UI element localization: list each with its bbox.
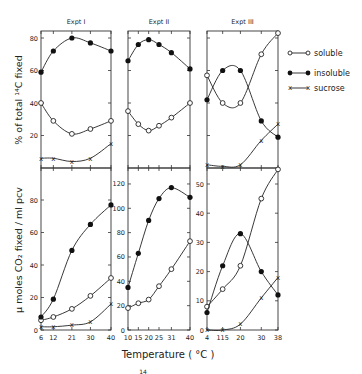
- filled-circle-marker: [156, 42, 161, 47]
- filled-circle-marker: [38, 70, 43, 75]
- open-circle-marker: [136, 301, 141, 306]
- x-marker-icon: x: [288, 84, 292, 92]
- panel-3-bottom: 010203040504115203038xxxxx: [196, 167, 282, 342]
- x-tick-label: 15: [134, 334, 142, 342]
- filled-circle-marker: [187, 66, 192, 71]
- x-tick-label: 21: [68, 334, 76, 342]
- y-tick-label: 20: [117, 302, 125, 310]
- y-tick-label: 60: [30, 229, 38, 237]
- filled-circle-marker: [108, 48, 113, 53]
- filled-circle-marker: [136, 251, 141, 256]
- y-tick-label: 100: [113, 205, 125, 213]
- x-marker: x: [109, 300, 113, 308]
- x-marker: x: [205, 326, 209, 334]
- panel-2-bottom: 020406080100120101520253140: [113, 168, 195, 342]
- open-circle-marker: [157, 284, 162, 289]
- legend: solubleinsolublexxsucrose: [288, 49, 350, 93]
- filled-circle-marker: [169, 50, 174, 55]
- x-tick-label: 20: [236, 334, 244, 342]
- legend-item-insoluble: insoluble: [288, 69, 350, 78]
- y-axis-label-bottom: μ moles CO₂ fixed / ml pcv: [13, 187, 24, 313]
- y-tick-label: 60: [30, 67, 38, 75]
- filled-circle-marker: [69, 35, 74, 40]
- open-circle-marker: [136, 122, 141, 127]
- filled-circle-marker: [69, 248, 74, 253]
- filled-circle-marker: [136, 42, 141, 47]
- open-circle-marker: [188, 239, 193, 244]
- filled-circle-marker: [238, 68, 243, 73]
- open-circle-marker: [157, 123, 162, 128]
- x-marker: x: [88, 155, 92, 163]
- open-circle-marker: [259, 52, 264, 57]
- open-circle-marker: [69, 306, 74, 311]
- filled-circle-marker: [275, 135, 280, 140]
- filled-circle-marker: [220, 68, 225, 73]
- legend-label: sucrose: [314, 84, 345, 93]
- y-tick-label: 20: [30, 132, 38, 140]
- y-tick-label: 0: [200, 327, 204, 335]
- x-tick-label: 20: [145, 334, 153, 342]
- filled-circle-marker: [88, 40, 93, 45]
- x-marker: x: [70, 321, 74, 329]
- x-marker: x: [88, 318, 92, 326]
- x-marker: x: [221, 326, 225, 334]
- x-marker: x: [70, 158, 74, 166]
- series-line-insoluble: [128, 188, 190, 288]
- open-circle-icon: [306, 51, 310, 55]
- series-line-sucrose: [207, 277, 278, 330]
- plot-frame: [128, 31, 190, 168]
- series-line-insoluble: [41, 38, 111, 72]
- x-tick-label: 30: [257, 334, 265, 342]
- filled-circle-marker: [204, 97, 209, 102]
- open-circle-marker: [146, 128, 151, 133]
- x-tick-label: 30: [86, 334, 94, 342]
- x-tick-label: 115: [216, 334, 228, 342]
- open-circle-marker: [276, 167, 281, 172]
- open-circle-marker: [51, 315, 56, 320]
- open-circle-marker: [220, 287, 225, 292]
- footer-mark: 14: [139, 368, 147, 374]
- filled-circle-marker: [146, 37, 151, 42]
- figure: Expt I20406080xxxxxExpt IIExpt IIIxxxxx0…: [0, 0, 362, 374]
- open-circle-marker: [188, 101, 193, 106]
- open-circle-marker: [126, 109, 131, 114]
- panel-title: Expt I: [67, 18, 86, 26]
- y-tick-label: 80: [117, 229, 125, 237]
- x-marker: x: [39, 155, 43, 163]
- x-marker: x: [259, 137, 263, 145]
- chart-panels: Expt I20406080xxxxxExpt IIExpt IIIxxxxx0…: [30, 18, 282, 342]
- plot-frame: [207, 168, 278, 330]
- filled-circle-marker: [51, 297, 56, 302]
- x-tick-label: 25: [155, 334, 163, 342]
- open-circle-marker: [109, 118, 114, 123]
- open-circle-marker: [146, 297, 151, 302]
- y-tick-label: 50: [196, 181, 204, 189]
- filled-circle-marker: [187, 195, 192, 200]
- y-tick-label: 0: [34, 327, 38, 335]
- filled-circle-marker: [204, 310, 209, 315]
- filled-circle-marker: [275, 292, 280, 297]
- filled-circle-marker: [169, 185, 174, 190]
- open-circle-marker: [88, 127, 93, 132]
- filled-circle-marker: [146, 218, 151, 223]
- open-circle-marker: [39, 101, 44, 106]
- panel-1-top: Expt I20406080xxxxx: [30, 18, 114, 168]
- series-line-insoluble: [207, 234, 278, 313]
- x-marker: x: [51, 155, 55, 163]
- y-tick-label: 40: [117, 278, 125, 286]
- y-tick-label: 30: [196, 239, 204, 247]
- open-circle-marker: [126, 306, 131, 311]
- x-tick-label: 40: [107, 334, 115, 342]
- y-tick-label: 40: [196, 210, 204, 218]
- x-tick-label: 31: [167, 334, 175, 342]
- panel-title: Expt II: [149, 18, 170, 26]
- x-tick-label: 40: [186, 334, 194, 342]
- filled-circle-marker: [238, 231, 243, 236]
- panel-2-top: Expt II: [125, 18, 192, 168]
- open-circle-marker: [276, 31, 281, 36]
- x-marker: x: [51, 323, 55, 331]
- open-circle-marker: [238, 101, 243, 106]
- x-marker: x: [238, 320, 242, 328]
- x-tick-label: 10: [124, 334, 132, 342]
- x-axis-label: Temperature ( °C ): [121, 349, 215, 360]
